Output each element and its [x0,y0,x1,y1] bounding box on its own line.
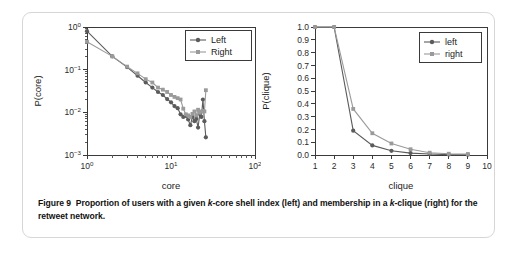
caption-text-part2: -core shell index (left) and membership … [213,198,390,208]
svg-text:6: 6 [408,161,413,171]
svg-text:8: 8 [446,161,451,171]
chart-clique: 1.00.90.80.70.60.50.40.30.20.10.01234567… [255,13,495,191]
svg-text:101: 101 [165,160,178,171]
svg-text:left: left [445,37,458,47]
svg-text:100: 100 [68,21,81,32]
svg-text:10: 10 [482,161,492,171]
caption-text-part1: Proportion of users with a given [76,198,208,208]
svg-text:4: 4 [370,161,375,171]
svg-text:0.6: 0.6 [297,73,309,83]
svg-text:7: 7 [427,161,432,171]
x-axis-title: clique [389,180,414,191]
svg-text:3: 3 [351,161,356,171]
svg-text:5: 5 [389,161,394,171]
svg-text:2: 2 [332,161,337,171]
svg-text:0.0: 0.0 [297,150,309,160]
y-axis-title: P(clique) [260,72,271,110]
svg-text:0.4: 0.4 [297,99,309,109]
figure-caption: Figure 9 Proportion of users with a give… [38,197,482,223]
svg-text:10−1: 10−1 [64,64,81,75]
chart-core: 10010−110−210−3100101102LeftRightcoreP(c… [25,13,261,191]
x-axis-title: core [162,180,180,191]
svg-text:0.3: 0.3 [297,112,309,122]
caption-label: Figure 9 [38,198,71,208]
svg-text:10−2: 10−2 [64,106,81,117]
svg-text:0.5: 0.5 [297,86,309,96]
svg-text:100: 100 [81,160,94,171]
figure-card: 10010−110−210−3100101102LeftRightcoreP(c… [22,12,495,238]
y-axis-title: P(core) [32,75,43,106]
svg-text:0.1: 0.1 [297,137,309,147]
charts-row: 10010−110−210−3100101102LeftRightcoreP(c… [23,13,496,191]
svg-text:10−3: 10−3 [64,149,81,160]
svg-text:right: right [445,49,463,59]
svg-text:1: 1 [313,161,318,171]
svg-text:0.7: 0.7 [297,61,309,71]
svg-text:0.8: 0.8 [297,48,309,58]
svg-text:Left: Left [211,35,227,45]
svg-text:1.0: 1.0 [297,22,309,32]
svg-text:Right: Right [211,47,233,57]
svg-text:0.9: 0.9 [297,35,309,45]
svg-text:9: 9 [466,161,471,171]
svg-text:0.2: 0.2 [297,125,309,135]
